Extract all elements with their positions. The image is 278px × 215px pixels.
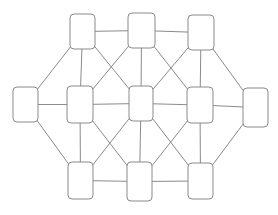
- node-bottom-right: [188, 163, 213, 199]
- node-top-right: [188, 15, 214, 50]
- node-mid-right: [187, 87, 213, 123]
- node-mid-far-right: [243, 88, 268, 127]
- node-bottom-center: [127, 162, 152, 201]
- node-mid-far-left: [13, 87, 38, 122]
- graph-diagram: [0, 0, 278, 215]
- node-bottom-left: [68, 162, 93, 199]
- node-mid-center: [129, 86, 153, 121]
- node-mid-left: [67, 86, 93, 123]
- node-top-center: [128, 13, 155, 48]
- node-top-left: [70, 14, 95, 49]
- diagram-canvas: [0, 0, 278, 215]
